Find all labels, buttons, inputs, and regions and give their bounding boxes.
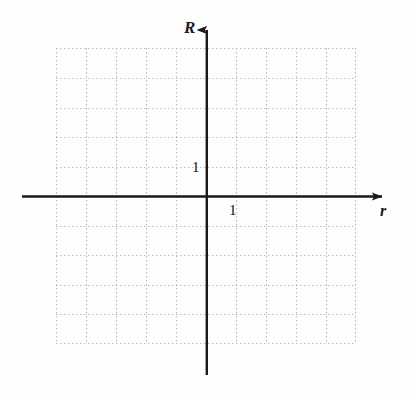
y-axis-label: R — [184, 19, 195, 36]
y-axis-tick-label-1: 1 — [192, 160, 200, 175]
x-axis-label: r — [380, 203, 386, 219]
coordinate-grid-figure: R r 1 1 — [0, 0, 415, 393]
axis-lines — [22, 30, 382, 375]
x-axis-tick-label-1: 1 — [229, 203, 237, 218]
coordinate-plot-canvas — [0, 0, 415, 393]
